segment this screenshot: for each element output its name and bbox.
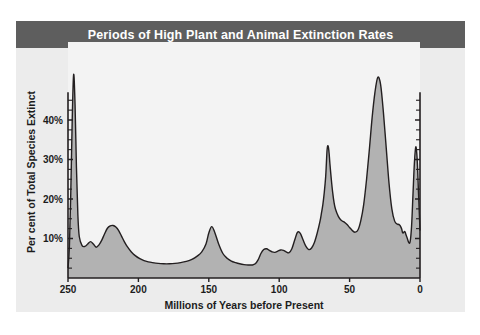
x-axis-title: Millions of Years before Present [164,299,324,311]
x-tick-label: 150 [200,284,217,295]
figure-container: Periods of High Plant and Animal Extinct… [0,0,480,335]
x-tick-label: 50 [344,284,356,295]
y-tick-label: 10% [43,233,63,244]
y-tick-label: 30% [43,154,63,165]
y-axis-title: Per cent of Total Species Extinct [25,90,37,253]
y-tick-label: 40% [43,115,63,126]
x-tick-label: 0 [417,284,423,295]
y-tick-label: 20% [43,194,63,205]
extinction-rate-area-chart: 10%20%30%40%250200150100500 Per cent of … [0,0,480,335]
x-tick-label: 100 [271,284,288,295]
x-tick-label: 250 [60,284,77,295]
x-tick-label: 200 [130,284,147,295]
